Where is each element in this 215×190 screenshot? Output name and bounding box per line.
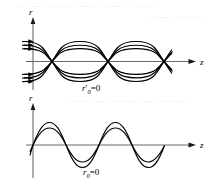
arrow-head-icon — [22, 43, 34, 47]
top-panel-r-axis-label: r — [29, 7, 33, 17]
arrow-head-icon — [22, 39, 34, 43]
bottom-panel-r-axis-label: r — [29, 93, 33, 103]
top-panel-r-axis — [31, 17, 36, 90]
top-panel — [22, 17, 196, 90]
bottom-panel-z-axis-label: z — [200, 140, 204, 150]
condition-tail: =0 — [91, 83, 101, 93]
bottom-panel-z-axis — [26, 142, 196, 147]
top-panel-condition-label: r′0=0 — [82, 83, 100, 95]
condition-tail: =0 — [90, 167, 100, 177]
arrow-head-icon — [22, 72, 34, 76]
top-panel-z-axis-label: z — [200, 57, 204, 67]
arrow-head-icon — [22, 76, 34, 80]
bottom-panel-condition-label: r0=0 — [83, 167, 99, 179]
arrow-head-icon — [22, 47, 34, 51]
bottom-panel — [26, 103, 196, 178]
arrow-head-icon — [22, 79, 34, 83]
